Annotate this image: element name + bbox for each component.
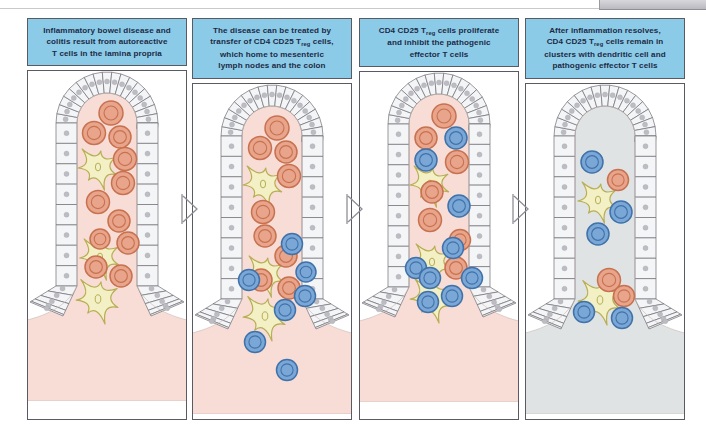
- effector-t-cell-nucleus: [420, 132, 433, 145]
- treg-cell: [277, 360, 298, 381]
- treg-cell-nucleus: [300, 266, 312, 278]
- caption-line-fragment: CD4 CD25 T: [547, 37, 594, 46]
- effector-t-cell-nucleus: [437, 109, 451, 123]
- treg-cell: [420, 268, 441, 289]
- epithelial-nucleus: [477, 213, 482, 218]
- epithelial-nucleus: [658, 312, 663, 317]
- epithelial-nucleus: [429, 81, 434, 86]
- epithelial-nucleus: [547, 312, 552, 317]
- epithelial-nucleus: [145, 171, 150, 176]
- epithelial-nucleus: [422, 83, 427, 88]
- panel-3-caption: CD4 CD25 Treg cells proliferateand inhib…: [359, 18, 519, 67]
- top-divider-line: [0, 8, 600, 9]
- epithelial-nucleus: [325, 312, 330, 317]
- treg-subscript: reg: [301, 41, 310, 47]
- epithelial-nucleus: [562, 286, 567, 291]
- effector-t-cell-nucleus: [122, 237, 135, 250]
- treg-cell-nucleus: [422, 296, 434, 308]
- epithelial-nucleus: [562, 184, 567, 189]
- panel-4-illustration: [525, 83, 685, 420]
- epithelial-nucleus: [477, 132, 482, 137]
- epithelial-nucleus: [120, 82, 125, 87]
- epithelial-nucleus: [562, 266, 567, 271]
- epithelial-nucleus: [643, 144, 648, 149]
- effector-t-cell-nucleus: [91, 195, 104, 208]
- epithelial-nucleus: [562, 164, 567, 169]
- effector-t-cell-nucleus: [450, 262, 463, 275]
- epithelial-nucleus: [542, 319, 547, 324]
- epithelial-nucleus: [277, 93, 282, 98]
- caption-line-fragment: The disease can be treated by: [213, 26, 331, 35]
- treg-cell-nucleus: [424, 272, 436, 284]
- epithelial-nucleus: [145, 109, 150, 114]
- epithelial-nucleus: [229, 286, 234, 291]
- treg-cell: [443, 238, 464, 259]
- epithelial-nucleus: [64, 171, 69, 176]
- effector-t-cell: [275, 141, 297, 163]
- effector-t-cell-nucleus: [259, 230, 272, 243]
- effector-t-cell-nucleus: [618, 290, 630, 302]
- epithelial-nucleus: [133, 90, 138, 95]
- treg-cell-nucleus: [578, 306, 590, 318]
- epithelial-nucleus: [90, 82, 95, 87]
- epithelial-nucleus: [145, 131, 150, 136]
- panel-1-illustration: [27, 70, 187, 420]
- epithelial-nucleus: [478, 118, 483, 123]
- epithelial-nucleus: [229, 225, 234, 230]
- treg-cell-nucleus: [447, 242, 459, 254]
- epithelial-nucleus: [67, 102, 72, 107]
- epithelial-nucleus: [386, 294, 391, 299]
- epithelial-nucleus: [643, 205, 648, 210]
- epithelial-nucleus: [236, 109, 241, 114]
- epithelial-nucleus: [562, 225, 567, 230]
- epithelial-nucleus: [644, 130, 649, 135]
- epithelial-nucleus: [310, 122, 315, 127]
- effector-t-cell-nucleus: [423, 213, 436, 226]
- epithelial-nucleus: [242, 103, 247, 108]
- arrow-1-to-2: [180, 192, 200, 226]
- panel-2: The disease can be treated bytransfer of…: [192, 18, 352, 420]
- panel-1: Inflammatory bowel disease andcolitis re…: [27, 18, 187, 420]
- epithelial-nucleus: [310, 144, 315, 149]
- epithelial-nucleus: [230, 122, 235, 127]
- epithelial-nucleus: [497, 307, 502, 312]
- effector-t-cell: [614, 286, 635, 307]
- epithelial-nucleus: [145, 273, 150, 278]
- treg-cell-nucleus: [279, 304, 291, 316]
- effector-t-cell-nucleus: [118, 152, 131, 165]
- epithelial-nucleus: [105, 79, 110, 84]
- effector-t-cell-nucleus: [612, 174, 624, 186]
- treg-cell: [239, 270, 260, 291]
- effector-t-cell: [419, 209, 442, 232]
- epithelial-nucleus: [155, 293, 160, 298]
- treg-cell-nucleus: [286, 238, 298, 250]
- treg-subscript: reg: [594, 41, 603, 47]
- effector-t-cell: [112, 172, 135, 195]
- epithelial-nucleus: [64, 192, 69, 197]
- epithelial-nucleus: [588, 95, 593, 100]
- epithelial-nucleus: [64, 233, 69, 238]
- epithelial-nucleus: [562, 246, 567, 251]
- epithelial-nucleus: [477, 254, 482, 259]
- epithelial-nucleus: [229, 205, 234, 210]
- epithelial-nucleus: [248, 98, 253, 103]
- treg-cell: [245, 332, 266, 353]
- caption-line-fragment: which home to mesenteric: [220, 50, 324, 59]
- effector-t-cell-nucleus: [450, 155, 463, 168]
- treg-cell: [574, 302, 595, 323]
- epithelial-nucleus: [49, 299, 54, 304]
- epithelial-nucleus: [285, 95, 290, 100]
- treg-cell-nucleus: [281, 364, 293, 376]
- treg-cell-nucleus: [446, 290, 458, 302]
- epithelial-nucleus: [63, 117, 68, 122]
- caption-line-fragment: cells remain in: [603, 37, 663, 46]
- epithelial-nucleus: [396, 172, 401, 177]
- epithelial-nucleus: [558, 299, 563, 304]
- treg-cell-nucleus: [615, 206, 628, 219]
- dendritic-cell-nucleus: [262, 312, 268, 320]
- epithelial-nucleus: [640, 115, 645, 120]
- epithelial-nucleus: [396, 234, 401, 239]
- epithelial-nucleus: [643, 246, 648, 251]
- epithelial-nucleus: [165, 306, 170, 311]
- panel-1-caption: Inflammatory bowel disease andcolitis re…: [27, 18, 187, 66]
